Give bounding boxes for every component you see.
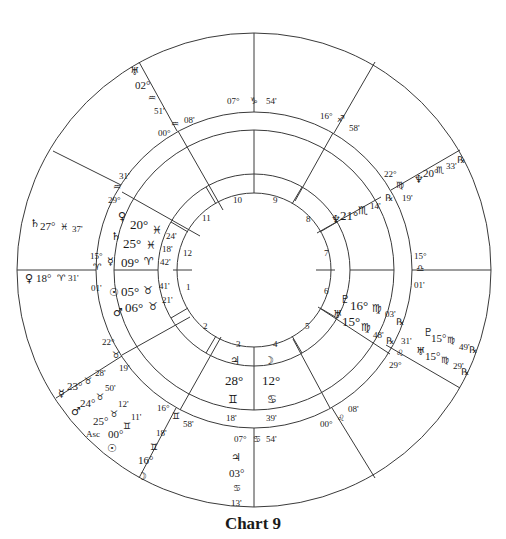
house-number-7: 7	[324, 249, 329, 258]
outer-saturn-deg: 27°	[40, 221, 55, 232]
outer-mercury-min: 28'	[95, 369, 106, 378]
spoke	[206, 336, 216, 353]
outer-sun-sign: ♊	[123, 422, 131, 431]
outer-mars-min: 50'	[105, 384, 116, 393]
cusp-dsc-min: 01'	[414, 281, 425, 290]
outer-moon-min: 18'	[156, 429, 167, 438]
cusp-dsc-deg: 15°	[414, 252, 427, 261]
pluto-retrograde: ℞	[396, 318, 404, 327]
outer-uranus2-sign: ♍	[441, 356, 449, 365]
sun-sign: ♉	[143, 285, 153, 296]
outer-mars-sign: ♉	[96, 393, 104, 402]
cusp-ic-deg: 07°	[234, 435, 247, 444]
house-number-3: 3	[236, 340, 241, 349]
cusp-11-min: 08'	[184, 116, 195, 125]
mars-icon: ♂	[113, 307, 123, 318]
house-number-4: 4	[273, 340, 278, 349]
neptune-sign: ♏	[358, 205, 368, 216]
sun-icon: ☉	[109, 287, 119, 298]
venus-sign: ♓	[152, 225, 162, 236]
uranus-min: 48'	[373, 331, 384, 340]
outer-jupiter-icon: ♃	[231, 452, 241, 463]
uranus-sign: ♍	[361, 322, 371, 333]
outer-ascendant-deg: 25°	[93, 416, 108, 427]
cusp-9-min: 58'	[349, 124, 360, 133]
outer-venus-min: 31'	[68, 274, 79, 283]
house-number-6: 6	[324, 287, 329, 296]
outer-sun-deg: 00°	[108, 429, 123, 440]
pluto-icon: ♇	[340, 294, 350, 305]
venus-icon: ♀	[118, 211, 126, 222]
spoke	[171, 308, 188, 318]
cusp-mc-min: 54'	[266, 97, 277, 106]
cusp-2-deg: 22°	[102, 338, 115, 347]
cusp-8-min: 19'	[402, 194, 413, 203]
cusp-8-deg: 22°	[384, 170, 397, 179]
house-number-12: 12	[183, 249, 192, 258]
outer-pluto-deg: 15°	[431, 333, 446, 344]
outer-saturn-min: 37'	[72, 225, 83, 234]
jupiter-sign: ♊	[228, 394, 238, 405]
outer-sun-icon: ☉	[107, 443, 117, 454]
outer-jupiter-min: 13'	[231, 499, 242, 508]
cusp-5-sign: ♌	[337, 414, 345, 423]
outer-ascendant-icon: Asc	[86, 430, 100, 439]
cusp-mc-deg: 07°	[227, 97, 240, 106]
outer-venus-deg: 18°	[36, 273, 51, 284]
neptune-retrograde: ℞	[385, 194, 393, 203]
outer-mercury-sign: ♉	[84, 377, 92, 386]
spoke	[292, 187, 302, 204]
outer-neptune-sign: ♏	[436, 166, 444, 175]
saturn-icon: ♄	[111, 231, 121, 242]
cusp-5-min: 08'	[348, 405, 359, 414]
cusp-ic-sign: ♋	[253, 435, 261, 444]
uranus-retrograde: ℞	[386, 337, 394, 346]
cusp-2-min: 19'	[119, 364, 130, 373]
outer-moon-sign: ♊	[150, 443, 158, 452]
cusp-12-deg: 29°	[108, 196, 121, 205]
mercury-min: 42'	[160, 258, 171, 267]
outer-venus-icon: ♀	[25, 273, 33, 284]
cusp-3-sign: ♊	[172, 412, 180, 421]
house-number-10: 10	[233, 196, 242, 205]
house-number-1: 1	[186, 283, 191, 292]
cusp-line-12-outer	[53, 151, 121, 185]
sun-min: 41'	[159, 282, 170, 291]
cusp-asc-sign: ♈	[93, 263, 101, 272]
cusp-ic-min: 54'	[266, 435, 277, 444]
outer-ascendant-sign: ♉	[110, 410, 118, 419]
outer-pluto-sign: ♍	[447, 336, 455, 345]
outer-uranus2-deg: 15°	[425, 351, 440, 362]
outer-saturn-sign: ♓	[60, 223, 68, 232]
outer-jupiter-deg: 03°	[229, 468, 244, 479]
outer-uranus2-retrograde: ℞	[461, 368, 469, 377]
uranus-deg: 15°	[342, 315, 360, 328]
pluto-deg: 16°	[350, 299, 368, 312]
cusp-asc-deg: 15°	[90, 252, 103, 261]
cusp-8-sign: ♍	[396, 181, 404, 190]
saturn-deg: 25°	[123, 237, 141, 250]
cusp-11-deg: 00°	[158, 129, 171, 138]
moon-min: 39'	[266, 414, 277, 423]
venus-deg: 20°	[130, 218, 148, 231]
house-number-2: 2	[203, 322, 208, 331]
chart-wheel	[0, 0, 506, 539]
chart-title: Chart 9	[0, 514, 506, 534]
outer-jupiter-sign: ♋	[233, 484, 241, 493]
house-number-11: 11	[202, 214, 211, 223]
cusp-12-min: 31'	[119, 172, 130, 181]
moon-icon: ☽	[264, 355, 274, 366]
outer-moon-deg: 16°	[138, 455, 153, 466]
cusp-3-min: 58'	[183, 420, 194, 429]
outer-moon-icon: ☽	[137, 471, 147, 482]
outer-mercury-deg: 23°	[67, 381, 82, 392]
mars-deg: 06°	[125, 301, 143, 314]
moon-deg: 12°	[262, 374, 280, 387]
saturn-min: 18'	[162, 245, 173, 254]
outer-saturn-icon: ♄	[30, 218, 40, 229]
outer-neptune-min: 33'	[446, 162, 457, 171]
cusp-3-deg: 16°	[157, 404, 170, 413]
cusp-6-deg: 29°	[389, 361, 402, 370]
spoke	[292, 336, 302, 353]
cusp-2-sign: ♉	[112, 351, 120, 360]
